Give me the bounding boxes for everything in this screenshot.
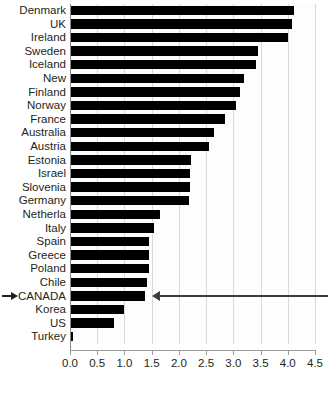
bar-canada — [70, 291, 145, 300]
bar-israel — [70, 169, 190, 178]
category-label-germany: Germany — [19, 194, 66, 208]
bar-new — [70, 74, 244, 83]
bar-korea — [70, 305, 124, 314]
bar-sweden — [70, 46, 258, 55]
bar-finland — [70, 87, 240, 96]
x-tick-label-4.5: 4.5 — [307, 357, 323, 369]
bar-norway — [70, 101, 236, 110]
x-tick-2.5 — [206, 350, 207, 355]
x-tick-0.5 — [97, 350, 98, 355]
canada-pointer-arrow-icon — [152, 291, 328, 301]
bar-row — [70, 222, 315, 236]
category-label-new: New — [43, 72, 66, 86]
category-label-australia: Australia — [21, 126, 66, 140]
x-tick-label-0.0: 0.0 — [62, 357, 78, 369]
x-tick-label-4.0: 4.0 — [280, 357, 296, 369]
category-label-france: France — [30, 113, 66, 127]
bar-italy — [70, 223, 154, 232]
category-label-turkey: Turkey — [31, 330, 66, 344]
canada-label-arrow-icon — [2, 292, 18, 301]
category-label-israel: Israel — [38, 167, 66, 181]
category-label-italy: Italy — [45, 222, 66, 236]
category-label-estonia: Estonia — [28, 154, 66, 168]
horizontal-bar-chart: DenmarkUKIrelandSwedenIcelandNewFinlandN… — [0, 0, 328, 394]
bar-row — [70, 167, 315, 181]
bar-france — [70, 114, 225, 123]
bar-row — [70, 208, 315, 222]
x-tick-1.0 — [124, 350, 125, 355]
category-label-sweden: Sweden — [24, 45, 66, 59]
bar-row — [70, 72, 315, 86]
bar-row — [70, 194, 315, 208]
category-label-poland: Poland — [30, 262, 66, 276]
x-tick-label-1.0: 1.0 — [116, 357, 132, 369]
category-label-greece: Greece — [28, 249, 66, 263]
bar-row — [70, 4, 315, 18]
x-tick-0.0 — [70, 350, 71, 355]
bar-greece — [70, 250, 149, 259]
x-tick-label-2.5: 2.5 — [198, 357, 214, 369]
x-tick-label-3.0: 3.0 — [225, 357, 241, 369]
category-label-uk: UK — [50, 18, 66, 32]
category-label-spain: Spain — [37, 235, 66, 249]
bar-uk — [70, 19, 292, 28]
x-tick-1.5 — [152, 350, 153, 355]
category-label-denmark: Denmark — [19, 4, 66, 18]
category-label-austria: Austria — [30, 140, 66, 154]
bar-chile — [70, 278, 147, 287]
x-tick-label-1.5: 1.5 — [144, 357, 160, 369]
bar-row — [70, 58, 315, 72]
category-label-netherla: Netherla — [23, 208, 66, 222]
bar-row — [70, 86, 315, 100]
bar-iceland — [70, 60, 256, 69]
bar-estonia — [70, 155, 191, 164]
x-tick-label-2.0: 2.0 — [171, 357, 187, 369]
bar-row — [70, 113, 315, 127]
x-tick-label-3.5: 3.5 — [253, 357, 269, 369]
category-label-us: US — [50, 317, 66, 331]
bar-row — [70, 235, 315, 249]
category-label-iceland: Iceland — [29, 58, 66, 72]
bar-row — [70, 249, 315, 263]
bar-netherla — [70, 210, 160, 219]
bar-australia — [70, 128, 214, 137]
cropped-caption-remnant — [96, 386, 206, 392]
bar-row — [70, 31, 315, 45]
bar-spain — [70, 237, 149, 246]
category-label-korea: Korea — [35, 303, 66, 317]
arrow-head — [11, 292, 18, 300]
bar-row — [70, 317, 315, 331]
arrow-shaft — [158, 295, 328, 296]
bar-row — [70, 276, 315, 290]
x-tick-4.0 — [288, 350, 289, 355]
bar-row — [70, 181, 315, 195]
x-axis-line — [70, 350, 316, 351]
bar-row — [70, 99, 315, 113]
bar-row — [70, 154, 315, 168]
bar-row — [70, 18, 315, 32]
category-label-ireland: Ireland — [31, 31, 66, 45]
x-tick-label-0.5: 0.5 — [89, 357, 105, 369]
bar-row — [70, 45, 315, 59]
bar-row — [70, 330, 315, 344]
category-label-slovenia: Slovenia — [22, 181, 66, 195]
x-tick-4.5 — [315, 350, 316, 355]
bar-row — [70, 140, 315, 154]
bar-slovenia — [70, 182, 190, 191]
y-axis-line — [70, 4, 71, 350]
bar-ireland — [70, 33, 288, 42]
bar-denmark — [70, 6, 294, 15]
bar-row — [70, 303, 315, 317]
x-tick-3.0 — [233, 350, 234, 355]
bar-poland — [70, 264, 149, 273]
bar-austria — [70, 142, 209, 151]
category-label-chile: Chile — [40, 276, 66, 290]
bar-row — [70, 126, 315, 140]
bar-us — [70, 318, 114, 327]
x-tick-2.0 — [179, 350, 180, 355]
category-label-finland: Finland — [28, 86, 66, 100]
x-tick-3.5 — [261, 350, 262, 355]
bar-row — [70, 262, 315, 276]
category-label-norway: Norway — [27, 99, 66, 113]
bar-germany — [70, 196, 189, 205]
